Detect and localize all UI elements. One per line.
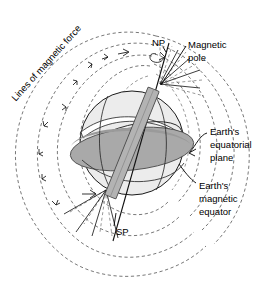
label-magnetic-equator-line2: magnetic — [199, 193, 238, 204]
label-magnetic-pole-line2: pole — [188, 52, 206, 63]
label-magnetic-pole-line1: Magnetic — [188, 39, 227, 50]
label-equatorial-plane-line3: plane — [210, 152, 233, 163]
figure-root: Lines of magnetic force NP SP Magnetic p… — [0, 0, 274, 281]
label-magnetic-equator-line3: equator — [199, 206, 231, 217]
earth-magnetic-field-diagram: Lines of magnetic force NP SP Magnetic p… — [0, 0, 274, 281]
label-equatorial-plane-line1: Earth's — [210, 126, 240, 137]
label-north-pole: NP — [152, 37, 165, 48]
label-south-pole: SP — [116, 226, 129, 237]
label-equatorial-plane-line2: equatorial — [210, 139, 252, 150]
label-magnetic-equator-line1: Earth's — [199, 180, 229, 191]
